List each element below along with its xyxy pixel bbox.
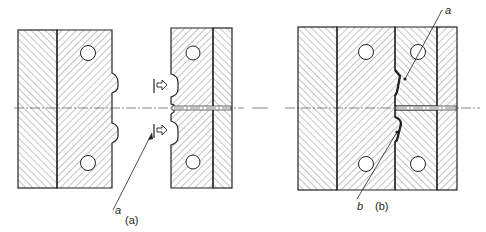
- cooling-channel-icon: [359, 157, 374, 172]
- cooling-channel-icon: [359, 45, 374, 60]
- cooling-channel-icon: [81, 156, 96, 171]
- callout-leader: [113, 133, 152, 210]
- callout-label-b: b: [357, 200, 363, 212]
- arrow-right-icon: [157, 80, 167, 90]
- cooling-channel-icon: [186, 155, 200, 169]
- panel-b-mold-closed: [298, 27, 457, 190]
- cooling-channel-icon: [186, 46, 200, 60]
- mold-cross-section-diagram: a (a) a b (b): [0, 0, 486, 232]
- panel-a-left-mold: [18, 30, 118, 188]
- cooling-channel-icon: [81, 46, 96, 61]
- callout-label-a: a: [445, 4, 451, 16]
- callout-label-a: a: [115, 204, 121, 216]
- cooling-channel-icon: [411, 157, 426, 172]
- cooling-channel-icon: [411, 45, 426, 60]
- panel-caption-a: (a): [125, 214, 138, 226]
- insert-film-indicators: [154, 79, 167, 138]
- arrow-right-icon: [157, 125, 167, 135]
- panel-caption-b: (b): [375, 200, 388, 212]
